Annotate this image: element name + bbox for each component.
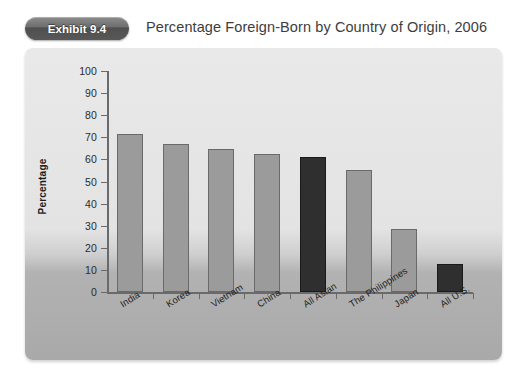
- x-tick-mark: [290, 293, 291, 299]
- y-tick-mark: [101, 292, 107, 293]
- y-tick-mark: [101, 226, 107, 227]
- bar: [254, 154, 280, 292]
- bar: [300, 157, 326, 292]
- exhibit-title: Percentage Foreign-Born by Country of Or…: [146, 19, 487, 35]
- y-tick-mark: [101, 182, 107, 183]
- x-tick-mark: [199, 293, 200, 299]
- y-tick-mark: [101, 71, 107, 72]
- y-tick-label: 90: [57, 87, 97, 99]
- y-tick-mark: [101, 93, 107, 94]
- y-axis-title: Percentage: [37, 142, 48, 232]
- y-tick-mark: [101, 270, 107, 271]
- y-tick-label: 50: [57, 176, 97, 188]
- y-tick-mark: [101, 204, 107, 205]
- y-tick-mark: [101, 248, 107, 249]
- y-tick-label: 60: [57, 153, 97, 165]
- x-tick-mark: [473, 293, 474, 299]
- x-tick-mark: [382, 293, 383, 299]
- exhibit-figure: Exhibit 9.4 Percentage Foreign-Born by C…: [0, 0, 525, 392]
- y-tick-label: 30: [57, 220, 97, 232]
- y-tick-mark: [101, 115, 107, 116]
- y-tick-mark: [101, 137, 107, 138]
- y-tick-label: 0: [57, 286, 97, 298]
- bar-chart-plot-area: Percentage 0102030405060708090100 IndiaK…: [25, 48, 502, 360]
- y-tick-label: 80: [57, 109, 97, 121]
- x-tick-mark: [427, 293, 428, 299]
- chart-panel: Percentage 0102030405060708090100 IndiaK…: [25, 48, 502, 360]
- x-tick-mark: [244, 293, 245, 299]
- y-axis-line: [107, 71, 109, 293]
- bar: [163, 144, 189, 292]
- bar: [346, 170, 372, 292]
- y-tick-mark: [101, 159, 107, 160]
- y-tick-label: 10: [57, 264, 97, 276]
- bar: [208, 149, 234, 292]
- y-tick-label: 40: [57, 198, 97, 210]
- y-tick-label: 70: [57, 131, 97, 143]
- x-tick-mark: [336, 293, 337, 299]
- x-tick-mark: [153, 293, 154, 299]
- exhibit-number-badge: Exhibit 9.4: [25, 17, 129, 40]
- y-tick-label: 100: [57, 65, 97, 77]
- exhibit-header: Exhibit 9.4 Percentage Foreign-Born by C…: [0, 0, 525, 54]
- bar: [117, 134, 143, 292]
- y-tick-label: 20: [57, 242, 97, 254]
